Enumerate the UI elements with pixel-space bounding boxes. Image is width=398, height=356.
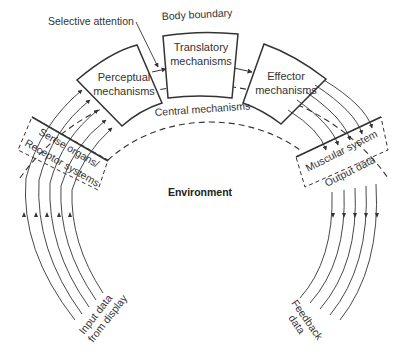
feedback-data-arrows <box>300 184 377 320</box>
human-information-processing-diagram: Selective attention Body boundary Centra… <box>0 0 398 356</box>
environment-label: Environment <box>168 186 233 198</box>
central-mechanisms-arc <box>108 122 300 160</box>
body-boundary-label: Body boundary <box>161 6 233 22</box>
perceptual-box-line2: mechanisms <box>93 85 155 97</box>
input-data-arrows <box>25 90 112 320</box>
translatory-to-effector-arrow <box>234 68 252 72</box>
translatory-box-line1: Translatory <box>174 41 229 53</box>
central-mechanisms-label: Central mechanisms <box>154 99 250 118</box>
effector-box-line2: mechanisms <box>255 84 317 96</box>
perceptual-box-line1: Perceptual <box>98 71 151 83</box>
output-mid-arrowheads <box>331 213 379 218</box>
effector-box-line1: Effector <box>267 70 305 82</box>
perceptual-to-translatory-arrow <box>152 69 166 72</box>
translatory-box-line2: mechanisms <box>170 55 232 67</box>
selective-attention-label: Selective attention <box>48 15 134 27</box>
input-mid-arrowheads <box>22 212 72 217</box>
